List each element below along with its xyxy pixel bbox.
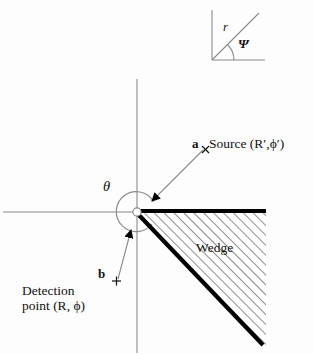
inset-psi-arc xyxy=(228,45,235,61)
wedge-vertex xyxy=(133,208,141,216)
source-marker xyxy=(202,146,209,153)
detection-marker xyxy=(112,277,121,286)
source-label: Source (R′,ϕ′) xyxy=(209,136,284,151)
vector-a-label: a xyxy=(192,137,199,152)
wedge-label: Wedge xyxy=(196,240,233,255)
detection-label-line1: Detection xyxy=(22,283,85,298)
detection-point-label: Detection point (R, ϕ) xyxy=(22,283,85,313)
detection-label-line2: point (R, ϕ) xyxy=(22,298,85,313)
vector-a-line xyxy=(152,150,203,201)
inset-r-label: r xyxy=(223,20,228,34)
wedge-diffraction-figure: a Source (R′,ϕ′) b Detection point (R, ϕ… xyxy=(0,0,314,354)
vector-b-label: b xyxy=(98,267,105,282)
vector-b-line xyxy=(118,230,131,279)
inset-psi-label: Ψ xyxy=(238,36,249,51)
theta-label: θ xyxy=(103,178,110,194)
inset-ray-r xyxy=(212,13,259,60)
